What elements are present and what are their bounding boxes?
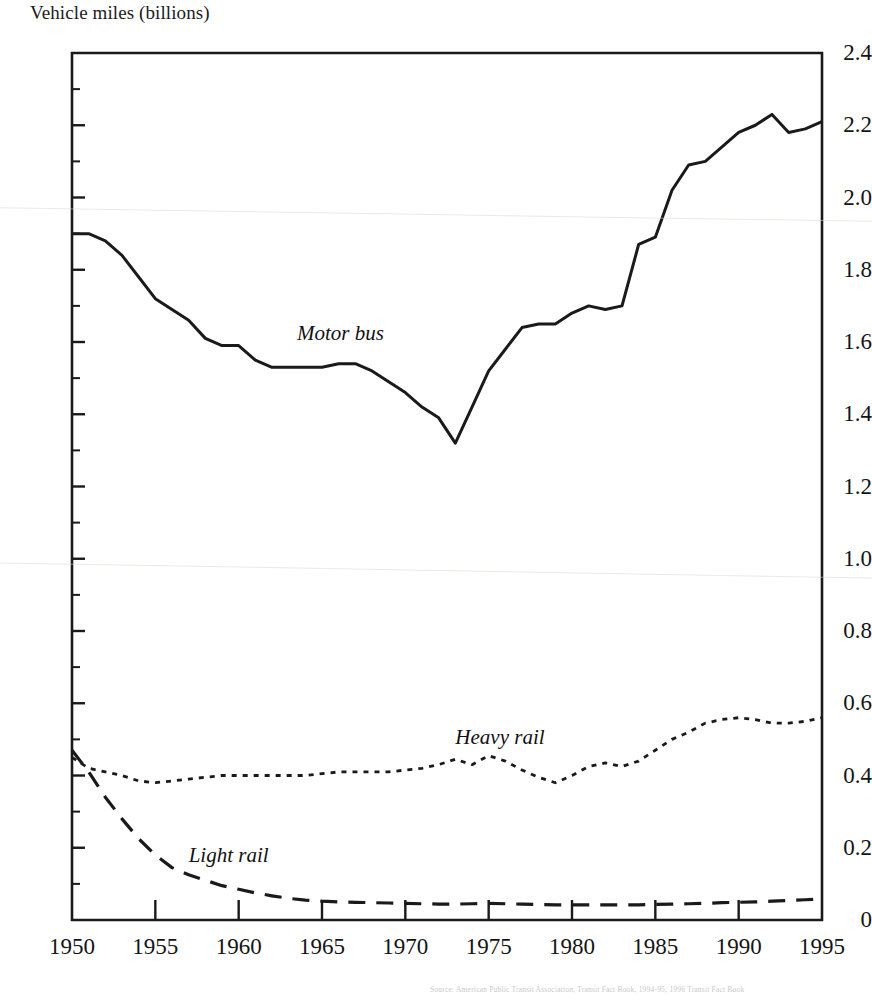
y-tick-label: 1.8: [810, 257, 872, 283]
y-axis-title: Vehicle miles (billions): [30, 2, 210, 24]
plot-frame: [72, 53, 822, 920]
chart-figure: Vehicle miles (billions) 2.42.22.01.81.6…: [0, 0, 872, 999]
series-label-light-rail: Light rail: [189, 843, 269, 868]
y-tick-label: 1.0: [810, 546, 872, 572]
y-tick-label: 1.6: [810, 329, 872, 355]
y-tick-label: 2.4: [810, 40, 872, 66]
y-tick-label: 0.6: [810, 690, 872, 716]
series-line-light-rail: [72, 750, 822, 905]
x-tick-label: 1960: [216, 934, 262, 960]
y-tick-label: 1.2: [810, 474, 872, 500]
x-tick-label: 1970: [382, 934, 428, 960]
y-tick-label: 0.2: [810, 835, 872, 861]
y-tick-label: 1.4: [810, 401, 872, 427]
series-label-motor-bus: Motor bus: [297, 321, 384, 346]
y-tick-label: 0.4: [810, 763, 872, 789]
y-tick-label: 2.0: [810, 185, 872, 211]
x-tick-label: 1955: [132, 934, 178, 960]
series-line-heavy-rail: [72, 718, 822, 783]
y-tick-label: 2.2: [810, 112, 872, 138]
x-tick-label: 1975: [466, 934, 512, 960]
source-footnote: Source: American Public Transit Associat…: [430, 985, 744, 994]
x-tick-label: 1990: [716, 934, 762, 960]
series-label-heavy-rail: Heavy rail: [455, 725, 544, 750]
series-line-motor-bus: [72, 114, 822, 443]
x-tick-label: 1965: [299, 934, 345, 960]
y-tick-label: 0.8: [810, 618, 872, 644]
plot-canvas: [0, 0, 872, 999]
x-tick-label: 1980: [549, 934, 595, 960]
x-tick-label: 1950: [49, 934, 95, 960]
x-tick-label: 1985: [632, 934, 678, 960]
x-tick-label: 1995: [799, 934, 845, 960]
y-tick-label: 0: [810, 907, 872, 933]
